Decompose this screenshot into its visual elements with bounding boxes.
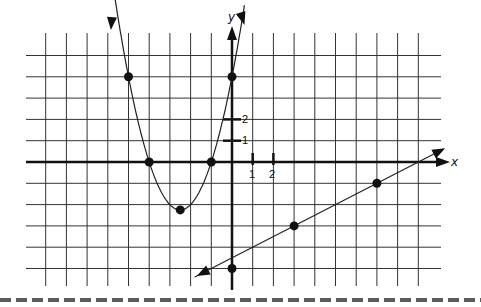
- x-axis-label: x: [451, 155, 458, 169]
- y-axis-label: y: [228, 10, 235, 24]
- x-tick-label-2: 2: [269, 168, 275, 180]
- data-point: [372, 179, 381, 188]
- x-tick-label-1: 1: [249, 168, 255, 180]
- data-point: [176, 205, 185, 214]
- y-tick-label-2: 2: [242, 113, 248, 125]
- data-point: [290, 221, 299, 230]
- data-point: [228, 264, 237, 273]
- y-tick-label-1: 1: [242, 134, 248, 146]
- axes: [26, 26, 450, 290]
- coordinate-plane: [0, 0, 481, 307]
- data-point: [124, 72, 133, 81]
- data-point: [145, 158, 154, 167]
- dashed-separator: [0, 298, 481, 302]
- data-point: [228, 72, 237, 81]
- data-point: [207, 158, 216, 167]
- graph-curves: [107, 0, 445, 277]
